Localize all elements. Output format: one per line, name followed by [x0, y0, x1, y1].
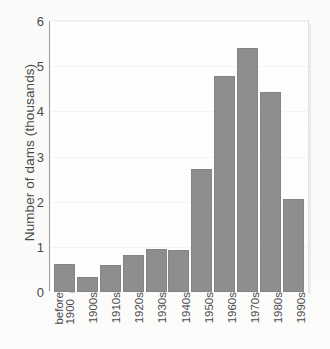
x-tick-label-1940s: 1940s	[181, 292, 192, 323]
bar-chart-figure: Number of dams (thousands) 0123456 befor…	[0, 0, 330, 349]
x-axis-tick-labels: before19001900s1910s1920s1930s1940s1950s…	[53, 292, 308, 348]
x-tick-label-1910s: 1910s	[111, 292, 122, 323]
plot-right-shadow	[308, 24, 311, 294]
y-tick-label-5: 5	[37, 60, 44, 73]
bar-slot-1930s	[145, 21, 168, 292]
y-tick-label-1: 1	[37, 240, 44, 253]
bar-slot-1990s	[282, 21, 305, 292]
bar-slot-before-1900	[53, 21, 76, 292]
bar-slot-1940s	[168, 21, 191, 292]
y-axis-tick-labels: 0123456	[26, 20, 44, 290]
plot-area	[51, 20, 309, 292]
x-tick-slot-1980s: 1980s	[262, 292, 285, 348]
x-tick-label-1920s: 1920s	[134, 292, 145, 323]
y-tick-label-3: 3	[37, 150, 44, 163]
x-tick-label-line: 1940s	[180, 292, 192, 323]
x-tick-label-line: 1920s	[133, 292, 145, 323]
x-tick-label-line: 1990s	[295, 292, 307, 323]
y-tick-label-4: 4	[37, 105, 44, 118]
x-tick-label-line: 1910s	[110, 292, 122, 323]
bar-1950s[interactable]	[191, 169, 212, 292]
x-tick-label-line: before	[53, 292, 65, 325]
x-tick-label-1950s: 1950s	[204, 292, 215, 323]
bar-slot-1980s	[259, 21, 282, 292]
x-tick-label-1960s: 1960s	[227, 292, 238, 323]
bar-slot-1910s	[99, 21, 122, 292]
x-tick-slot-1920s: 1920s	[123, 292, 146, 348]
y-tick-label-2: 2	[37, 195, 44, 208]
x-tick-label-line: 1900s	[87, 292, 99, 323]
x-tick-slot-1960s: 1960s	[215, 292, 238, 348]
x-tick-label-line: 1970s	[249, 292, 261, 323]
x-tick-label-line: 1900	[65, 292, 76, 325]
bar-1900s[interactable]	[77, 277, 98, 292]
x-tick-slot-1950s: 1950s	[192, 292, 215, 348]
bar-1990s[interactable]	[283, 199, 304, 292]
y-tick-label-0: 0	[37, 286, 44, 299]
bar-slot-1920s	[122, 21, 145, 292]
x-tick-slot-1900s: 1900s	[76, 292, 99, 348]
x-tick-slot-1930s: 1930s	[146, 292, 169, 348]
x-tick-slot-1940s: 1940s	[169, 292, 192, 348]
x-tick-slot-1970s: 1970s	[239, 292, 262, 348]
bar-slot-1900s	[76, 21, 99, 292]
x-tick-label-line: 1950s	[203, 292, 215, 323]
bar-1930s[interactable]	[146, 249, 167, 292]
bar-1980s[interactable]	[260, 92, 281, 292]
x-tick-label-1980s: 1980s	[273, 292, 284, 323]
x-tick-label-1970s: 1970s	[250, 292, 261, 323]
bar-1940s[interactable]	[168, 250, 189, 292]
x-tick-label-before-1900: before1900	[54, 292, 76, 325]
bar-slot-1950s	[190, 21, 213, 292]
bar-1910s[interactable]	[100, 265, 121, 292]
x-tick-label-1990s: 1990s	[296, 292, 307, 323]
y-axis-line	[49, 21, 50, 291]
x-tick-label-1930s: 1930s	[157, 292, 168, 323]
x-tick-label-line: 1930s	[156, 292, 168, 323]
bar-slot-1970s	[236, 21, 259, 292]
x-tick-slot-1910s: 1910s	[99, 292, 122, 348]
x-tick-label-line: 1980s	[272, 292, 284, 323]
bar-1920s[interactable]	[123, 255, 144, 292]
bar-before-1900[interactable]	[54, 264, 75, 292]
bar-1970s[interactable]	[237, 48, 258, 292]
bar-slot-1960s	[213, 21, 236, 292]
x-tick-label-1900s: 1900s	[88, 292, 99, 323]
x-tick-label-line: 1960s	[226, 292, 238, 323]
bar-1960s[interactable]	[214, 76, 235, 292]
bar-series	[53, 21, 305, 292]
y-tick-label-6: 6	[37, 15, 44, 28]
x-tick-slot-1990s: 1990s	[285, 292, 308, 348]
x-tick-slot-before-1900: before1900	[53, 292, 76, 348]
